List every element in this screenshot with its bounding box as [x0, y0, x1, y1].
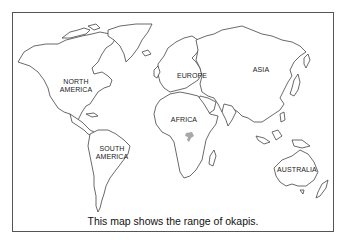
new-guinea-shape	[292, 140, 310, 148]
label-south-america-line2: AMERICA	[92, 153, 132, 161]
south-america-shape	[88, 130, 130, 212]
iceland-shape	[142, 50, 151, 56]
label-africa: AFRICA	[166, 116, 202, 124]
label-south-america-line1: SOUTH	[92, 145, 132, 153]
map-caption: This map shows the range of okapis.	[12, 215, 334, 227]
label-north-america: NORTH AMERICA	[56, 78, 96, 94]
tasmania-shape	[300, 190, 304, 194]
world-map	[0, 0, 348, 249]
philippines-shape	[280, 112, 285, 122]
label-north-america-line2: AMERICA	[56, 86, 96, 94]
label-asia: ASIA	[246, 66, 276, 74]
indonesia-shape	[256, 136, 270, 144]
north-america-shape	[18, 32, 116, 120]
madagascar-shape	[209, 150, 216, 166]
central-america-shape	[70, 114, 94, 136]
indonesia-shape-2	[272, 130, 282, 140]
europe-shape	[158, 36, 202, 92]
new-zealand-shape	[316, 180, 328, 198]
label-north-america-line1: NORTH	[56, 78, 96, 86]
label-europe: EUROPE	[172, 72, 212, 80]
caribbean-islands-shape	[86, 113, 98, 117]
label-australia: AUSTRALIA	[272, 166, 322, 174]
label-south-america: SOUTH AMERICA	[92, 145, 132, 161]
arctic-islands-shape-2	[88, 24, 100, 30]
kamchatka-shape	[304, 54, 310, 68]
greenland-shape	[108, 24, 152, 62]
